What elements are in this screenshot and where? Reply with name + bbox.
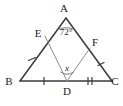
vertex-label-B: B bbox=[5, 75, 12, 87]
vertex-label-F: F bbox=[92, 36, 98, 48]
vertex-label-C: C bbox=[111, 75, 118, 87]
cevian-FD bbox=[67, 48, 90, 81]
vertex-label-A: A bbox=[60, 2, 68, 14]
geometry-figure: A B C D E F 72° x bbox=[0, 0, 123, 106]
geometry-canvas: A B C D E F 72° x bbox=[0, 0, 123, 106]
angle-label-D: x bbox=[64, 63, 69, 73]
vertex-label-E: E bbox=[35, 27, 42, 39]
vertex-label-D: D bbox=[63, 85, 71, 97]
cevian-ED bbox=[45, 36, 67, 81]
angle-label-A: 72° bbox=[60, 27, 73, 37]
